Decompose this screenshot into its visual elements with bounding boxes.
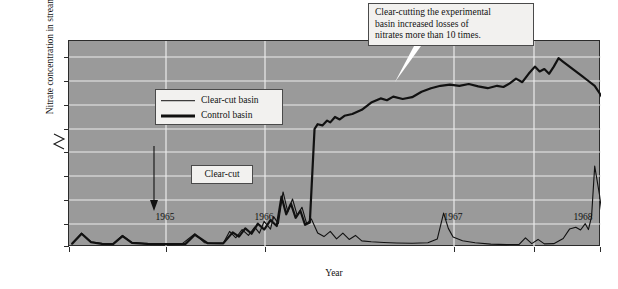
x-axis-title: Year [68,268,600,278]
y-tick-mark [64,200,69,201]
callout-line-1: Clear-cutting the experimental [375,7,527,19]
clear-cut-annotation-label: Clear-cut [204,169,239,181]
x-tick-mark [69,247,70,252]
x-tick-mark [265,247,266,252]
series-line-clear-cut-basin [72,166,601,244]
y-tick-mark [64,105,69,106]
x-tick-mark [454,247,455,252]
y-tick-mark [64,57,69,58]
y-tick-mark [64,176,69,177]
callout-annotation-box: Clear-cutting the experimental basin inc… [368,3,534,46]
clear-cut-annotation-box: Clear-cut [191,165,253,184]
legend-label-clear-cut-basin: Clear-cut basin [201,95,259,107]
legend: Clear-cut basin Control basin [155,89,283,125]
x-tick-label-1965: 1965 [135,212,195,222]
legend-entry-clear-cut-basin: Clear-cut basin [161,93,277,108]
x-tick-mark [166,247,167,252]
x-tick-label-1967: 1967 [423,212,483,222]
legend-line-swatch-control [161,113,195,119]
x-tick-mark [600,247,601,252]
y-tick-mark [64,224,69,225]
x-tick-mark [534,247,535,252]
x-tick-label-1966: 1966 [234,212,294,222]
callout-line-3: nitrates more than 10 times. [375,30,527,42]
y-tick-mark [64,152,69,153]
legend-line-swatch-clear-cut [161,98,195,104]
y-tick-mark [64,81,69,82]
callout-line-2: basin increased losses of [375,19,527,31]
legend-label-control-basin: Control basin [201,110,252,122]
x-tick-label-1968: 1968 [553,212,613,222]
y-tick-mark [64,129,69,130]
nitrate-concentration-figure: Nitrate concentration in stream water (m… [0,0,618,289]
legend-entry-control-basin: Control basin [161,108,277,123]
